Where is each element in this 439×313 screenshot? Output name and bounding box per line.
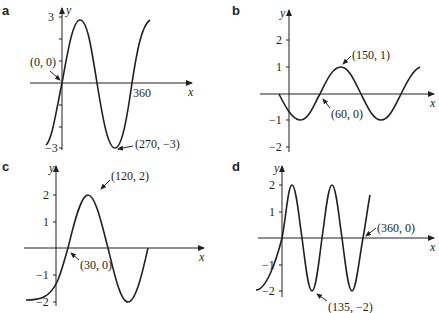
tick-minus-2: −2 bbox=[269, 140, 282, 154]
y-axis-label: y bbox=[279, 6, 286, 20]
annotation-peak: (150, 1) bbox=[352, 48, 390, 62]
y-axis-label: y bbox=[273, 161, 280, 175]
tick-minus-1: −1 bbox=[269, 113, 282, 127]
panel-label-d: d bbox=[232, 159, 240, 174]
tick-1: 1 bbox=[269, 205, 275, 219]
tick-minus-1: −1 bbox=[36, 268, 49, 282]
y-axis-label: y bbox=[65, 3, 72, 17]
annotation-trough: (135, −2) bbox=[328, 300, 373, 313]
tick-3: 3 bbox=[48, 10, 54, 24]
panel-label-b: b bbox=[232, 3, 240, 18]
tick-360: 360 bbox=[133, 86, 151, 100]
annotation-peak: (120, 2) bbox=[111, 169, 149, 183]
tick-2: 2 bbox=[276, 33, 282, 47]
annotation-trough: (270, −3) bbox=[135, 137, 180, 151]
y-axis-label: y bbox=[48, 161, 55, 175]
annotation-origin: (0, 0) bbox=[30, 55, 56, 69]
tick-1: 1 bbox=[43, 215, 49, 229]
panel-label-c: c bbox=[2, 159, 9, 174]
figure: a x y 3 −3 360 (0, 0) (270, −3) b x y 2 … bbox=[0, 0, 439, 313]
panel-label-a: a bbox=[2, 3, 10, 18]
panel-b: b x y 2 1 −1 −2 (150, 1) (60, 0) bbox=[232, 3, 436, 154]
tick-2: 2 bbox=[43, 188, 49, 202]
x-axis-label: x bbox=[198, 250, 205, 264]
annotation-zero: (360, 0) bbox=[377, 221, 415, 235]
annotation-zero: (30, 0) bbox=[80, 258, 112, 272]
tick-minus-1: −1 bbox=[262, 258, 275, 272]
panel-a: a x y 3 −3 360 (0, 0) (270, −3) bbox=[2, 3, 194, 155]
tick-1: 1 bbox=[276, 60, 282, 74]
panel-d: d x y 2 1 −1 −2 (360, 0) (135, −2) bbox=[232, 159, 436, 313]
annotation-zero: (60, 0) bbox=[331, 107, 363, 121]
x-axis-label: x bbox=[187, 85, 194, 99]
panel-c: c x y 2 1 −1 −2 (120, 2) (30, 0) bbox=[2, 159, 205, 309]
x-axis-label: x bbox=[429, 240, 436, 254]
x-axis-label: x bbox=[429, 96, 436, 110]
tick-2: 2 bbox=[269, 178, 275, 192]
tick-minus-2: −2 bbox=[262, 284, 275, 298]
